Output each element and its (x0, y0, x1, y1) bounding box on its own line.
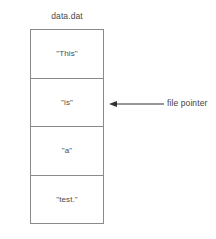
file-record-0: "This" (31, 30, 103, 79)
record-label: "test." (56, 195, 78, 204)
file-record-1: "is" (31, 79, 103, 128)
file-pointer-label: file pointer (167, 98, 207, 108)
file-record-3: "test." (31, 176, 103, 224)
file-record-2: "a" (31, 127, 103, 176)
record-label: "a" (62, 146, 72, 155)
file-name-title: data.dat (30, 11, 104, 21)
file-diagram: data.dat "This" "is" "a" "test." file po… (0, 0, 216, 239)
record-label: "This" (56, 49, 77, 58)
record-label: "is" (61, 98, 73, 107)
file-record-block: "This" "is" "a" "test." (30, 29, 104, 224)
file-pointer-annotation: file pointer (108, 95, 216, 113)
arrow-left-icon (108, 95, 166, 113)
